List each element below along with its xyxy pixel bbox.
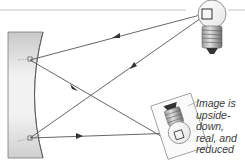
arrow-icon [76, 133, 83, 139]
arrow-icon [130, 62, 137, 69]
concave-mirror [8, 32, 43, 158]
image-caption: Image is upside- down, real, and reduced [196, 98, 245, 156]
caption-line: Image is [196, 98, 245, 110]
ray-reflected-bottom [30, 133, 176, 138]
arrow-icon [112, 33, 120, 38]
caption-line: down, [196, 121, 245, 133]
ray-reflected-top [30, 60, 178, 146]
object-bulb [198, 0, 226, 54]
caption-line: reduced [196, 144, 245, 156]
